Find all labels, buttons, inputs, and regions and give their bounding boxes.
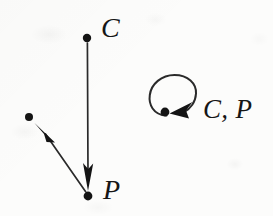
- node-c-dot[interactable]: [83, 34, 91, 42]
- edge-c-to-p-line: [87, 43, 88, 172]
- edge-p-to-left: [35, 123, 86, 192]
- node-label-c: C: [101, 14, 120, 42]
- edge-self-loop-arrowhead: [170, 102, 193, 119]
- edge-p-to-left-line: [46, 134, 86, 192]
- edge-self-loop: [150, 75, 196, 119]
- edge-c-to-p: [83, 43, 93, 191]
- node-label-c-p: C, P: [203, 96, 252, 123]
- node-left-dot[interactable]: [25, 113, 33, 121]
- node-self-loop-dot[interactable]: [161, 108, 170, 117]
- node-p-dot[interactable]: [84, 192, 93, 201]
- diagram-canvas: C P C, P: [0, 0, 273, 216]
- node-label-p: P: [103, 176, 120, 204]
- edge-self-loop-path: [150, 75, 196, 116]
- edge-p-to-left-arrowhead: [35, 123, 56, 143]
